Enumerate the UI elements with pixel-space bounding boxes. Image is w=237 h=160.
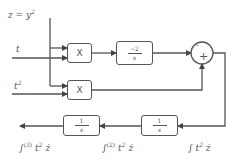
- diagram-wires: [0, 0, 237, 160]
- multiply-block-bottom[interactable]: X: [67, 80, 92, 100]
- gain-block[interactable]: −2 s: [116, 41, 153, 65]
- multiply-label: X: [76, 48, 82, 58]
- multiply-block-top[interactable]: X: [67, 43, 92, 63]
- multiply-label: X: [76, 85, 82, 95]
- gain-fraction: −2 s: [128, 46, 142, 61]
- sum-minus-sign: -: [196, 41, 199, 50]
- integrator-fraction: 1 s: [153, 118, 167, 133]
- integral-1-label: ∫ t2 ż: [188, 141, 211, 153]
- z-label: z = y2: [8, 8, 35, 20]
- mult-bottom-to-sum: [92, 64, 202, 90]
- sum-plus-sign: +: [199, 50, 208, 63]
- integrator-block-right[interactable]: 1 s: [141, 115, 178, 136]
- integrator-fraction: 1 s: [75, 118, 89, 133]
- t2-label: t2: [14, 79, 21, 91]
- t-label: t: [16, 44, 20, 54]
- integral-3-label: ∫(3) t2 ż: [19, 141, 50, 153]
- integrator-block-left[interactable]: 1 s: [63, 115, 100, 136]
- integral-2-label: ∫(2) t2 ż: [102, 141, 133, 153]
